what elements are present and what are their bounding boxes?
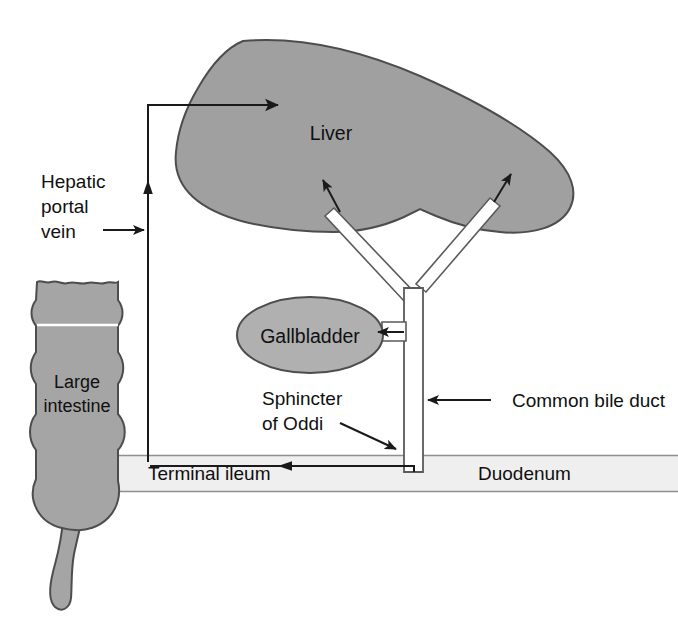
liver [176, 40, 574, 233]
diagram-canvas: Liver Hepatic portal vein Large intestin… [0, 0, 678, 638]
terminal-ileum-label: Terminal ileum [148, 463, 270, 484]
common-bile-duct [404, 288, 423, 472]
hepatic-portal-vein-label-line3: vein [41, 221, 76, 242]
large-intestine-label-line2: intestine [43, 396, 110, 416]
gallbladder-label: Gallbladder [260, 325, 360, 347]
hepatic-portal-vein-label-line1: Hepatic [41, 171, 105, 192]
common-bile-duct-label: Common bile duct [512, 390, 666, 411]
sphincter-pointer [340, 423, 396, 449]
anatomy-diagram: Liver Hepatic portal vein Large intestin… [0, 0, 678, 638]
sphincter-of-oddi-label-line1: Sphincter [262, 388, 343, 409]
liver-label: Liver [310, 122, 353, 144]
sphincter-of-oddi-label-line2: of Oddi [262, 413, 323, 434]
duodenum-label: Duodenum [478, 463, 571, 484]
large-intestine [30, 281, 125, 610]
large-intestine-label-line1: Large [54, 372, 100, 392]
hepatic-portal-vein-label-line2: portal [41, 196, 89, 217]
